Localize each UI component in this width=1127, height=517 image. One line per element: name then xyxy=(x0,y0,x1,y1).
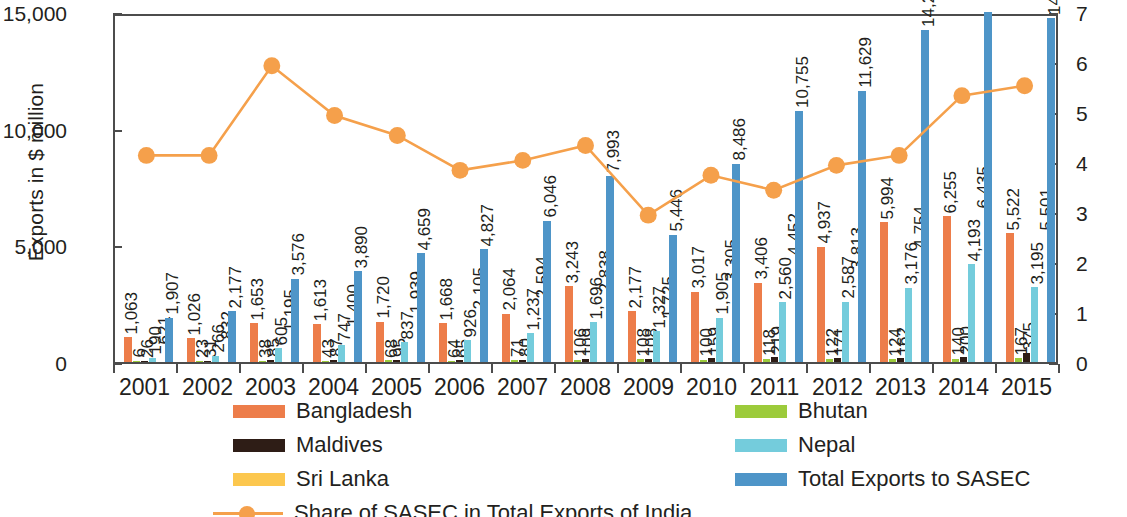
bar[interactable] xyxy=(157,348,164,362)
bar[interactable] xyxy=(606,176,613,363)
bar[interactable] xyxy=(960,357,967,362)
bar[interactable] xyxy=(228,311,235,362)
legend-item[interactable]: Bangladesh xyxy=(233,398,412,424)
bar[interactable] xyxy=(409,317,416,362)
bar[interactable] xyxy=(952,359,959,362)
bar[interactable] xyxy=(842,302,849,362)
bar[interactable] xyxy=(771,357,778,362)
bar[interactable] xyxy=(393,360,400,362)
bar[interactable] xyxy=(889,359,896,362)
legend-item[interactable]: Total Exports to SASEC xyxy=(735,466,1030,492)
bar[interactable] xyxy=(346,329,353,362)
bar[interactable] xyxy=(897,358,904,362)
bar[interactable] xyxy=(826,359,833,362)
legend-item[interactable]: Share of SASEC in Total Exports of India xyxy=(213,500,692,517)
bar[interactable] xyxy=(645,359,652,362)
bar-value-label: 14,760 xyxy=(1046,0,1063,15)
bar[interactable] xyxy=(598,296,605,362)
bar[interactable] xyxy=(448,361,455,362)
y-axis-right-tick-label: 1 xyxy=(1076,302,1088,326)
bar-value-label: 1,668 xyxy=(438,278,455,321)
bar[interactable] xyxy=(204,361,211,362)
bar[interactable] xyxy=(141,361,148,362)
bar[interactable] xyxy=(338,345,345,362)
bar-value-label: 1,026 xyxy=(186,293,203,336)
bar[interactable] xyxy=(700,360,707,362)
bar[interactable] xyxy=(417,253,424,362)
bar[interactable] xyxy=(1015,358,1022,362)
x-axis-tick-mark xyxy=(113,364,115,373)
bar[interactable] xyxy=(291,279,298,362)
bar[interactable] xyxy=(149,358,156,362)
bar[interactable] xyxy=(850,273,857,362)
bar-value-label: 1,653 xyxy=(249,278,266,321)
bar[interactable] xyxy=(724,285,731,362)
bar-group: 4,9371221712,5873,81311,629 xyxy=(817,12,865,362)
bar[interactable] xyxy=(905,288,912,362)
legend-label: Bhutan xyxy=(798,398,868,424)
bar[interactable] xyxy=(1039,234,1046,362)
x-axis-tick-mark xyxy=(428,364,430,373)
bar[interactable] xyxy=(590,322,597,362)
bar-group: 3,4061182192,5604,45210,755 xyxy=(754,12,802,362)
bar[interactable] xyxy=(787,258,794,362)
bar[interactable] xyxy=(834,358,841,362)
bar-group: 2,1771081081,3271,7255,446 xyxy=(628,12,676,362)
bar[interactable] xyxy=(511,360,518,362)
bar[interactable] xyxy=(322,361,329,362)
bar[interactable] xyxy=(653,331,660,362)
bar[interactable] xyxy=(968,264,975,362)
bar[interactable] xyxy=(464,340,471,362)
bar[interactable] xyxy=(858,91,865,362)
bar[interactable] xyxy=(472,313,479,362)
bar[interactable] xyxy=(669,235,676,362)
bar[interactable] xyxy=(716,318,723,362)
legend-item[interactable]: Sri Lanka xyxy=(233,466,389,492)
bar[interactable] xyxy=(535,301,542,362)
bar[interactable] xyxy=(779,302,786,362)
bar[interactable] xyxy=(401,342,408,362)
bar[interactable] xyxy=(984,12,991,362)
bar[interactable] xyxy=(732,164,739,362)
bar[interactable] xyxy=(1023,353,1030,362)
bar[interactable] xyxy=(1031,287,1038,362)
plot-area: 1,0636261906211,9071,02623312668322,1771… xyxy=(113,14,1058,364)
bar[interactable] xyxy=(456,360,463,362)
bar[interactable] xyxy=(220,343,227,362)
bar[interactable] xyxy=(165,318,172,362)
bar[interactable] xyxy=(480,249,487,362)
bar[interactable] xyxy=(582,359,589,362)
bar[interactable] xyxy=(275,348,282,362)
bar[interactable] xyxy=(354,271,361,362)
bar[interactable] xyxy=(133,361,140,362)
bar[interactable] xyxy=(795,111,802,362)
bar[interactable] xyxy=(385,360,392,362)
legend-item[interactable]: Nepal xyxy=(735,432,855,458)
bar[interactable] xyxy=(976,212,983,362)
bar[interactable] xyxy=(519,360,526,362)
legend-color-swatch xyxy=(233,405,285,418)
bar[interactable] xyxy=(543,221,550,362)
legend-label: Nepal xyxy=(798,432,855,458)
bar[interactable] xyxy=(661,322,668,362)
legend-item[interactable]: Maldives xyxy=(233,432,383,458)
bar[interactable] xyxy=(283,334,290,362)
bar[interactable] xyxy=(637,359,644,362)
x-axis-tick-mark xyxy=(302,364,304,373)
bar[interactable] xyxy=(212,356,219,362)
bar[interactable] xyxy=(763,359,770,362)
bar[interactable] xyxy=(921,30,928,362)
bar[interactable] xyxy=(1047,18,1054,362)
legend-item[interactable]: Bhutan xyxy=(735,398,868,424)
bar[interactable] xyxy=(913,251,920,362)
x-axis-tick-mark xyxy=(932,364,934,373)
bar[interactable] xyxy=(708,358,715,362)
bar[interactable] xyxy=(267,360,274,362)
bar[interactable] xyxy=(259,361,266,362)
legend-label: Sri Lanka xyxy=(296,466,389,492)
bar[interactable] xyxy=(574,360,581,362)
bar-value-label: 2,177 xyxy=(627,266,644,309)
bar[interactable] xyxy=(527,333,534,362)
bar[interactable] xyxy=(330,360,337,362)
bar[interactable] xyxy=(196,361,203,362)
